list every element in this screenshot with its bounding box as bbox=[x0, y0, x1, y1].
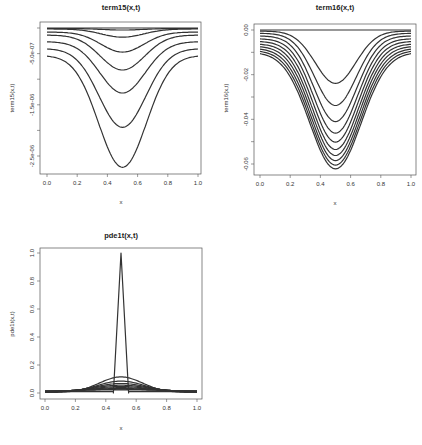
y-tick-label: 0.6 bbox=[29, 304, 35, 313]
x-tick-label: 0.8 bbox=[377, 181, 386, 187]
x-axis-label: x bbox=[120, 425, 123, 431]
chart-term16: term16(x,t) x term16(x,t) 0.00.20.40.60.… bbox=[223, 3, 416, 206]
series-line-t6 bbox=[260, 42, 411, 143]
y-tick-label: 0.00 bbox=[243, 24, 249, 36]
y-axis-ticks: -5.0e-07-1.5e-06-2.5e-06 bbox=[29, 28, 40, 167]
series-line-t8 bbox=[47, 56, 198, 167]
chart-title: term16(x,t) bbox=[316, 3, 355, 12]
x-tick-label: 1.0 bbox=[407, 181, 416, 187]
x-tick-label: 0.2 bbox=[286, 181, 295, 187]
y-tick-label: -0.06 bbox=[243, 157, 249, 171]
x-axis-ticks: 0.00.20.40.60.81.0 bbox=[256, 175, 416, 187]
series-line-t1 bbox=[45, 253, 197, 393]
x-tick-label: 1.0 bbox=[193, 405, 202, 411]
chart-title: pde1t(x,t) bbox=[104, 231, 138, 240]
y-tick-label: 0.2 bbox=[29, 360, 35, 369]
series-curves bbox=[45, 253, 197, 393]
x-tick-label: 0.0 bbox=[256, 181, 265, 187]
x-axis-label: x bbox=[334, 200, 337, 206]
y-axis-label: term16(x,t) bbox=[223, 83, 229, 112]
x-tick-label: 0.8 bbox=[162, 405, 171, 411]
series-line-t11 bbox=[260, 54, 411, 169]
x-tick-label: 1.0 bbox=[194, 180, 203, 186]
y-tick-label: 0.0 bbox=[29, 388, 35, 397]
x-tick-label: 0.4 bbox=[102, 405, 111, 411]
y-tick-label: 0.4 bbox=[29, 332, 35, 341]
x-tick-label: 0.6 bbox=[346, 181, 355, 187]
chart-pde1t: pde1t(x,t) x pde1t(x,t) 0.00.20.40.60.81… bbox=[9, 231, 202, 431]
x-tick-label: 0.4 bbox=[103, 180, 112, 186]
y-axis-label: pde1t(x,t) bbox=[9, 311, 15, 336]
series-line-t10 bbox=[260, 51, 411, 165]
chart-title: term15(x,t) bbox=[102, 3, 141, 12]
x-tick-label: 0.2 bbox=[71, 405, 80, 411]
y-tick-label: -5.0e-07 bbox=[29, 42, 35, 65]
chart-term15: term15(x,t) x term15(x,t) 0.00.20.40.60.… bbox=[9, 3, 203, 205]
y-axis-ticks: 0.00.20.40.60.81.0 bbox=[29, 248, 40, 397]
x-tick-label: 0.0 bbox=[41, 405, 50, 411]
series-curves bbox=[47, 28, 198, 167]
x-axis-label: x bbox=[120, 199, 123, 205]
x-tick-label: 0.6 bbox=[132, 405, 141, 411]
plot-box bbox=[254, 24, 416, 175]
y-axis-label: term15(x,t) bbox=[9, 83, 15, 112]
series-line-t7 bbox=[47, 49, 198, 127]
x-tick-label: 0.6 bbox=[133, 180, 142, 186]
y-tick-label: 1.0 bbox=[29, 248, 35, 257]
x-axis-ticks: 0.00.20.40.60.81.0 bbox=[41, 399, 202, 411]
y-tick-label: 0.8 bbox=[29, 276, 35, 285]
series-line-t4 bbox=[260, 36, 411, 122]
x-tick-label: 0.4 bbox=[316, 181, 325, 187]
figure: term15(x,t) x term15(x,t) 0.00.20.40.60.… bbox=[0, 0, 422, 445]
x-axis-ticks: 0.00.20.40.60.81.0 bbox=[43, 174, 203, 186]
series-line-t5 bbox=[260, 39, 411, 133]
x-tick-label: 0.2 bbox=[73, 180, 82, 186]
x-tick-label: 0.8 bbox=[164, 180, 173, 186]
y-axis-ticks: 0.00-0.02-0.04-0.06 bbox=[243, 24, 254, 171]
y-tick-label: -1.5e-06 bbox=[29, 93, 35, 116]
y-tick-label: -0.04 bbox=[243, 112, 249, 126]
series-line-t4 bbox=[47, 32, 198, 52]
x-tick-label: 0.0 bbox=[43, 180, 52, 186]
series-line-t6 bbox=[47, 42, 198, 93]
series-line-t10 bbox=[45, 390, 197, 391]
y-tick-label: -0.02 bbox=[243, 67, 249, 81]
series-line-t2 bbox=[260, 31, 411, 83]
y-tick-label: -2.5e-06 bbox=[29, 144, 35, 167]
series-curves bbox=[260, 30, 411, 169]
